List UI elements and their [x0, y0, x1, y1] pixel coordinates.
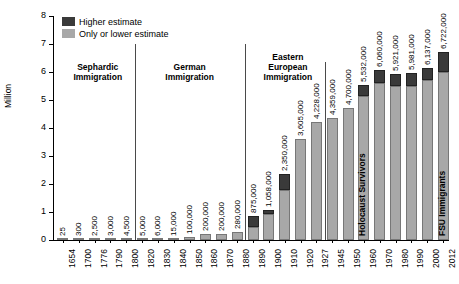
- bar-value-label: 4,500: [122, 216, 131, 236]
- bar-segment-higher: [390, 74, 401, 86]
- bar-segment-lower: [263, 214, 274, 240]
- bar: [232, 232, 243, 240]
- bar-value-label: 2,350,000: [280, 136, 289, 172]
- bar: [374, 70, 385, 240]
- bar-value-label: 6,137,000: [423, 30, 432, 66]
- bar-value-label: 6,000: [153, 216, 162, 236]
- x-tick: [174, 240, 175, 243]
- x-axis-label: 1920: [305, 249, 315, 268]
- bar-segment-lower: [232, 232, 243, 240]
- bar: [248, 216, 259, 241]
- y-tick: [49, 72, 53, 73]
- bar-segment-lower: [390, 86, 401, 240]
- x-tick: [411, 240, 412, 243]
- bar-value-label: 6,722,000: [439, 13, 448, 49]
- y-tick: [49, 100, 53, 101]
- bar-value-label: 5,981,000: [407, 34, 416, 70]
- group-title: Sephardic Immigration: [60, 62, 136, 82]
- bar-segment-lower: [279, 190, 290, 240]
- bar: [327, 118, 338, 240]
- plot-area: 012345678 253002,5003,0004,5005,0006,000…: [53, 16, 449, 240]
- bar-value-label: 3,000: [106, 216, 115, 236]
- bar-value-label: 200,000: [201, 202, 210, 231]
- x-tick: [380, 240, 381, 243]
- y-tick-label: 0: [31, 234, 46, 244]
- bar-value-label: 300: [74, 223, 83, 236]
- y-tick: [49, 212, 53, 213]
- x-tick: [205, 240, 206, 243]
- group-title: Eastern European Immigration: [250, 52, 326, 82]
- y-tick: [49, 44, 53, 45]
- x-axis-label: 1800: [130, 249, 140, 268]
- x-tick: [253, 240, 254, 243]
- x-tick: [443, 240, 444, 243]
- bar-segment-lower: [374, 83, 385, 240]
- y-tick-label: 7: [31, 38, 46, 48]
- bar-segment-higher: [358, 85, 369, 96]
- bar-value-label: 5,532,000: [359, 47, 368, 83]
- y-tick-label: 5: [31, 94, 46, 104]
- y-tick-label: 8: [31, 10, 46, 20]
- bar-value-label: 5,921,000: [391, 36, 400, 72]
- bar-value-label: 4,359,000: [328, 79, 337, 115]
- bar: [406, 73, 417, 240]
- x-tick: [427, 240, 428, 243]
- x-tick: [285, 240, 286, 243]
- x-tick: [301, 240, 302, 243]
- x-tick: [364, 240, 365, 243]
- x-axis-label: 1700: [83, 249, 93, 268]
- bar-segment-lower: [295, 139, 306, 240]
- y-tick: [49, 128, 53, 129]
- bar-segment-higher: [374, 70, 385, 83]
- bar-value-label: 100,000: [185, 205, 194, 234]
- x-tick: [158, 240, 159, 243]
- x-tick: [126, 240, 127, 243]
- bar-value-label: 1,058,000: [264, 172, 273, 208]
- bar-value-label: 25: [58, 227, 67, 236]
- y-tick-label: 6: [31, 66, 46, 76]
- bar: [295, 139, 306, 240]
- bar-segment-higher: [422, 68, 433, 80]
- x-axis-label: 1960: [368, 249, 378, 268]
- bar-value-label: 875,000: [249, 184, 258, 213]
- bar-segment-higher: [438, 52, 449, 72]
- bar-value-label: 5,000: [138, 216, 147, 236]
- x-tick: [190, 240, 191, 243]
- x-axis-label: 1830: [162, 249, 172, 268]
- x-axis-label: 1950: [352, 249, 362, 268]
- bar-segment-lower: [327, 118, 338, 240]
- bar-segment-lower: [406, 86, 417, 240]
- x-axis-label: 1880: [241, 249, 251, 268]
- x-tick: [348, 240, 349, 243]
- x-tick: [142, 240, 143, 243]
- x-axis-label: 2000: [431, 249, 441, 268]
- y-axis-label: Million: [3, 84, 13, 108]
- group-title: German Immigration: [152, 62, 228, 82]
- bar-segment-higher: [406, 73, 417, 86]
- bar-segment-lower: [343, 108, 354, 240]
- bar-annotation: FSU Immigrants: [437, 171, 447, 236]
- bar-annotation: Holocaust Survivors: [357, 153, 367, 236]
- x-tick: [63, 240, 64, 243]
- bar-segment-higher: [248, 216, 259, 228]
- x-axis-label: 1820: [146, 249, 156, 268]
- x-axis-label: 1910: [289, 249, 299, 268]
- x-tick: [237, 240, 238, 243]
- x-axis-label: 1790: [114, 249, 124, 268]
- bar: [390, 74, 401, 240]
- x-tick: [95, 240, 96, 243]
- x-tick: [332, 240, 333, 243]
- x-axis-line: [53, 240, 449, 241]
- x-axis-label: 2012: [447, 249, 457, 268]
- x-axis-label: 1900: [273, 249, 283, 268]
- x-axis-label: 1990: [415, 249, 425, 268]
- bar-value-label: 200,000: [217, 202, 226, 231]
- bar-value-label: 15,000: [169, 212, 178, 236]
- y-tick: [49, 184, 53, 185]
- bar: [311, 122, 322, 240]
- bar: [279, 174, 290, 240]
- y-tick-label: 3: [31, 150, 46, 160]
- x-axis-label: 1980: [400, 249, 410, 268]
- x-tick: [221, 240, 222, 243]
- x-axis-label: 1654: [67, 249, 77, 268]
